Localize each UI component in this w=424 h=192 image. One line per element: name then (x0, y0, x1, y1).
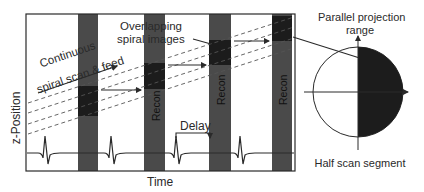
delay-bracket (176, 133, 210, 138)
image-block-1 (78, 86, 98, 116)
y-axis-label-text: z-Position (10, 88, 22, 148)
x-axis-label: Time (147, 176, 173, 188)
projection-title-2: range (318, 24, 402, 36)
projection-diagram (304, 36, 408, 150)
overlap-pointer (193, 39, 211, 44)
cardiac-spiral-ct-diagram: z z-Position Time Continuous spiral scan… (0, 0, 424, 192)
recon-label-2: Recon (150, 91, 162, 121)
image-block-2 (144, 63, 165, 89)
delay-label: Delay (180, 120, 211, 132)
recon-label-3: Recon (215, 75, 227, 105)
image-block-3 (209, 40, 231, 65)
overlapping-label-1: Overlapping (120, 20, 182, 32)
overlapping-label-2: spiral images (117, 33, 185, 45)
projection-title-1: Parallel projection (318, 11, 402, 23)
half-scan-caption: Half scan segment (312, 157, 408, 169)
recon-label-4: Recon (277, 75, 289, 105)
